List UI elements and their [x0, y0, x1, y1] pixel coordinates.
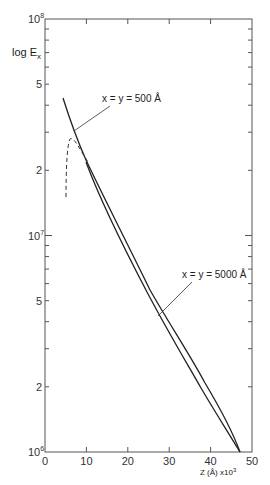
svg-text:2: 2 — [36, 381, 42, 393]
annotation-5000: x = y = 5000 Å — [182, 268, 247, 280]
curve-500A-dashed — [66, 139, 88, 197]
svg-text:5: 5 — [36, 78, 42, 90]
svg-text:50: 50 — [246, 455, 258, 467]
annotation-leader-5000 — [158, 282, 192, 316]
y-tick-labels: 108 5 2 107 5 2 106 — [28, 12, 44, 458]
y-axis-label: log Ex — [12, 46, 41, 61]
svg-text:107: 107 — [28, 229, 44, 242]
chart-canvas: 108 5 2 107 5 2 106 log Ex 0 10 20 30 40… — [0, 0, 270, 485]
curve-5000A — [86, 162, 240, 452]
y-axis-ticks — [45, 29, 252, 387]
svg-text:40: 40 — [204, 455, 216, 467]
svg-text:10: 10 — [80, 455, 92, 467]
svg-text:2: 2 — [36, 164, 42, 176]
svg-text:5: 5 — [36, 295, 42, 307]
annotation-leader-500 — [74, 106, 110, 131]
x-axis-ticks — [86, 19, 210, 452]
svg-text:108: 108 — [28, 12, 44, 25]
plot-frame — [45, 19, 252, 452]
svg-text:30: 30 — [163, 455, 175, 467]
svg-text:0: 0 — [42, 455, 48, 467]
svg-text:20: 20 — [122, 455, 134, 467]
annotation-500: x = y = 500 Å — [102, 92, 161, 104]
x-axis-label: Z (Å) x103 — [200, 467, 237, 477]
x-tick-labels: 0 10 20 30 40 50 — [42, 455, 258, 467]
